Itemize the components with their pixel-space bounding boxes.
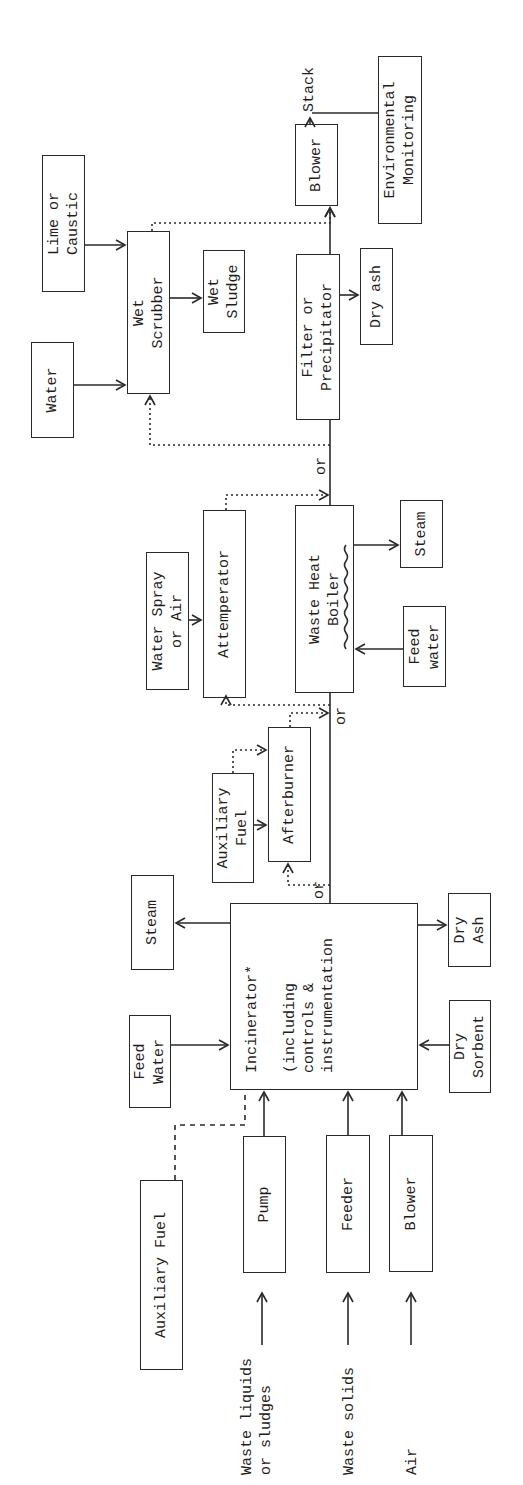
stack-label: Stack — [300, 67, 319, 112]
attemperator-box: Attemperator — [203, 510, 246, 698]
water-spray-box: Water Spray or Air — [146, 552, 189, 690]
or-label-boiler: or — [332, 707, 351, 725]
afterburner-auxiliary-fuel-box: Auxiliary Fuel — [212, 773, 254, 883]
feeder-box: Feeder — [326, 1135, 370, 1273]
afterburner-box: Afterburner — [268, 727, 311, 862]
wet-scrubber-box: Wet Scrubber — [127, 231, 170, 394]
stack-blower-box: Blower — [295, 124, 338, 206]
incinerator-box: Incinerator* (including controls & instr… — [230, 903, 418, 1090]
incinerator-process-diagram: Auxiliary Fuel Pump Feeder Blower Feed W… — [0, 0, 523, 1485]
filter-dry-ash-box: Dry ash — [360, 248, 393, 345]
boiler-feed-water-box: Feed water — [403, 606, 446, 687]
or-label-filter: or — [312, 457, 331, 475]
lime-caustic-box: Lime or Caustic — [42, 155, 85, 292]
pump-box: Pump — [243, 1136, 286, 1273]
auxiliary-fuel-box: Auxiliary Fuel — [140, 1180, 183, 1370]
waste-heat-boiler-box: Waste Heat Boiler — [295, 505, 354, 693]
environmental-monitoring-box: Environmental Monitoring — [378, 56, 422, 224]
air-label: Air — [403, 1448, 422, 1475]
air-blower-box: Blower — [389, 1135, 433, 1272]
incinerator-dry-ash-box: Dry Ash — [448, 893, 491, 967]
wet-sludge-box: Wet Sludge — [203, 250, 245, 333]
boiler-steam-box: Steam — [400, 500, 443, 568]
feed-water-box: Feed Water — [129, 1015, 171, 1108]
incinerator-steam-box: Steam — [131, 875, 174, 970]
filter-precipitator-box: Filter or Precipitator — [296, 254, 340, 420]
waste-liquids-label: Waste liquids or sludges — [238, 1358, 276, 1475]
water-box: Water — [31, 342, 74, 438]
or-label-afterburner: or — [310, 881, 329, 899]
dry-sorbent-box: Dry Sorbent — [449, 1000, 491, 1093]
waste-solids-label: Waste solids — [340, 1367, 359, 1475]
